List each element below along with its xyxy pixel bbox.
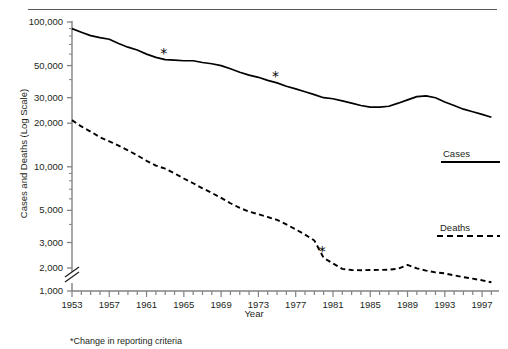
annotation-star: * [319, 244, 326, 258]
y-tick-label: 50,000 [0, 60, 63, 71]
y-tick-label: 2,000 [0, 262, 63, 273]
y-tick-label: 3,000 [0, 237, 63, 248]
y-tick-label: 5,000 [0, 204, 63, 215]
y-axis-title: Cases and Deaths (Log Scale) [18, 64, 29, 244]
series-line-deaths [72, 120, 491, 282]
chart-series-lines [72, 29, 491, 283]
legend-label-cases: Cases [443, 148, 470, 159]
annotation-star: * [272, 69, 279, 83]
legend-label-deaths: Deaths [440, 222, 470, 233]
chart-axes [65, 21, 499, 291]
y-tick-label: 1,000 [0, 285, 63, 296]
y-tick-label: 100,000 [0, 16, 63, 27]
x-axis-title: Year [0, 308, 508, 319]
y-tick-label: 30,000 [0, 92, 63, 103]
chart-figure: 100,00050,00030,00020,00010,0005,0003,00… [0, 0, 508, 349]
annotation-star: * [160, 46, 167, 60]
chart-footnote: *Change in reporting criteria [70, 336, 182, 346]
y-tick-label: 10,000 [0, 161, 63, 172]
y-tick-label: 20,000 [0, 117, 63, 128]
chart-plot-area [0, 0, 508, 349]
chart-ticks [67, 22, 491, 297]
series-line-cases [72, 29, 491, 118]
